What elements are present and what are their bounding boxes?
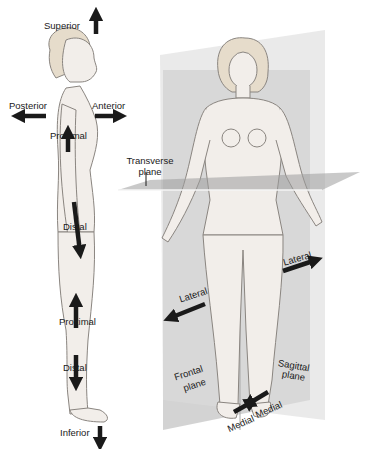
label-transverse-plane-2: plane bbox=[122, 167, 178, 177]
label-transverse-plane-1: Transverse bbox=[122, 156, 178, 166]
label-proximal-arm: Proximal bbox=[50, 131, 87, 141]
label-anterior: Anterior bbox=[92, 101, 125, 111]
anatomy-diagram: Superior Posterior Anterior Proximal Dis… bbox=[0, 0, 377, 449]
label-inferior: Inferior bbox=[60, 428, 90, 438]
label-proximal-leg: Proximal bbox=[59, 317, 96, 327]
label-distal-arm: Distal bbox=[63, 222, 87, 232]
label-superior: Superior bbox=[44, 21, 80, 31]
label-distal-leg: Distal bbox=[63, 363, 87, 373]
label-posterior: Posterior bbox=[9, 101, 47, 111]
